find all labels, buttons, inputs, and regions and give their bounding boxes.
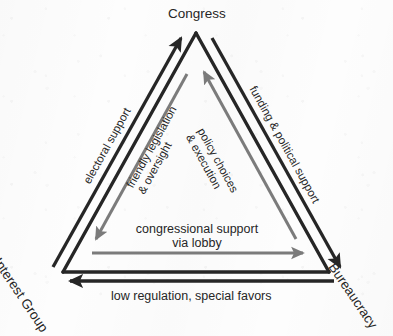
diagram-lines-layer <box>0 0 393 336</box>
edge-label-congressional-support-via-lobby-line2: via lobby <box>129 236 265 250</box>
edge-label-congressional-support-via-lobby-line1: congressional support <box>129 222 265 236</box>
edge-label-congressional-support-via-lobby: congressional support via lobby <box>129 222 265 250</box>
edge-label-low-regulation-special-favors: low regulation, special favors <box>111 289 272 303</box>
iron-triangle-diagram: Congress Interest Group Bureaucracy elec… <box>0 0 393 336</box>
vertex-label-congress: Congress <box>168 6 226 21</box>
